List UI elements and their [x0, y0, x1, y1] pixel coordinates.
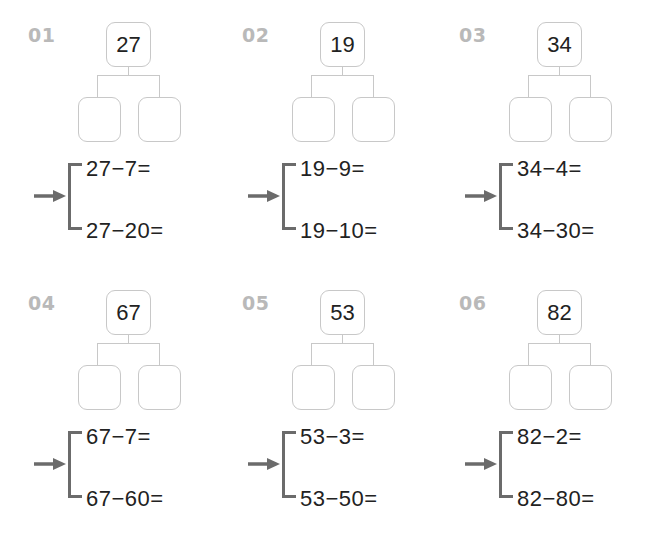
- connector-line: [342, 67, 343, 75]
- part-answer-box-right[interactable]: [352, 97, 395, 142]
- connector-line: [528, 75, 591, 76]
- equation-top: 82−2=: [517, 424, 582, 450]
- bracket: [68, 431, 82, 498]
- equation-top: 27−7=: [86, 156, 151, 182]
- connector-line: [528, 343, 529, 365]
- whole-number-box: 67: [106, 290, 151, 335]
- problem-panel-06: 06 82 82−2= 82−80=: [431, 268, 646, 536]
- right-arrow-icon: [248, 190, 280, 202]
- connector-line: [97, 343, 160, 344]
- equation-top: 53−3=: [300, 424, 365, 450]
- whole-number-box: 34: [537, 22, 582, 67]
- whole-number-box: 19: [320, 22, 365, 67]
- bracket: [282, 163, 296, 230]
- connector-line: [311, 343, 374, 344]
- right-arrow-icon: [34, 458, 66, 470]
- connector-line: [97, 75, 160, 76]
- problem-panel-02: 02 19 19−9= 19−10=: [214, 0, 429, 268]
- part-answer-box-left[interactable]: [509, 365, 552, 410]
- connector-line: [373, 75, 374, 97]
- connector-line: [590, 75, 591, 97]
- equation-bottom: 67−60=: [86, 486, 164, 512]
- bracket: [499, 163, 513, 230]
- problem-number: 01: [28, 24, 55, 46]
- part-answer-box-right[interactable]: [138, 365, 181, 410]
- equation-bottom: 82−80=: [517, 486, 595, 512]
- connector-line: [311, 343, 312, 365]
- connector-line: [128, 335, 129, 343]
- connector-line: [159, 343, 160, 365]
- problem-number: 02: [242, 24, 269, 46]
- problem-number: 04: [28, 292, 55, 314]
- connector-line: [528, 75, 529, 97]
- equation-top: 19−9=: [300, 156, 365, 182]
- equation-bottom: 19−10=: [300, 218, 378, 244]
- part-answer-box-right[interactable]: [569, 97, 612, 142]
- bracket: [282, 431, 296, 498]
- connector-line: [311, 75, 374, 76]
- connector-line: [97, 343, 98, 365]
- right-arrow-icon: [34, 190, 66, 202]
- connector-line: [342, 335, 343, 343]
- part-answer-box-left[interactable]: [509, 97, 552, 142]
- connector-line: [97, 75, 98, 97]
- problem-number: 06: [459, 292, 486, 314]
- equation-top: 67−7=: [86, 424, 151, 450]
- connector-line: [590, 343, 591, 365]
- equation-bottom: 27−20=: [86, 218, 164, 244]
- connector-line: [559, 335, 560, 343]
- connector-line: [159, 75, 160, 97]
- problem-number: 05: [242, 292, 269, 314]
- connector-line: [559, 67, 560, 75]
- whole-number-box: 82: [537, 290, 582, 335]
- whole-number-box: 27: [106, 22, 151, 67]
- part-answer-box-left[interactable]: [292, 97, 335, 142]
- problem-panel-03: 03 34 34−4= 34−30=: [431, 0, 646, 268]
- right-arrow-icon: [465, 458, 497, 470]
- whole-number-box: 53: [320, 290, 365, 335]
- bracket: [68, 163, 82, 230]
- part-answer-box-right[interactable]: [138, 97, 181, 142]
- part-answer-box-left[interactable]: [78, 97, 121, 142]
- connector-line: [311, 75, 312, 97]
- right-arrow-icon: [248, 458, 280, 470]
- part-answer-box-left[interactable]: [78, 365, 121, 410]
- problem-number: 03: [459, 24, 486, 46]
- part-answer-box-right[interactable]: [352, 365, 395, 410]
- equation-top: 34−4=: [517, 156, 582, 182]
- connector-line: [373, 343, 374, 365]
- part-answer-box-right[interactable]: [569, 365, 612, 410]
- problem-panel-05: 05 53 53−3= 53−50=: [214, 268, 429, 536]
- connector-line: [128, 67, 129, 75]
- problem-panel-01: 01 27 27−7= 27−20=: [0, 0, 215, 268]
- bracket: [499, 431, 513, 498]
- equation-bottom: 34−30=: [517, 218, 595, 244]
- equation-bottom: 53−50=: [300, 486, 378, 512]
- right-arrow-icon: [465, 190, 497, 202]
- part-answer-box-left[interactable]: [292, 365, 335, 410]
- connector-line: [528, 343, 591, 344]
- problem-panel-04: 04 67 67−7= 67−60=: [0, 268, 215, 536]
